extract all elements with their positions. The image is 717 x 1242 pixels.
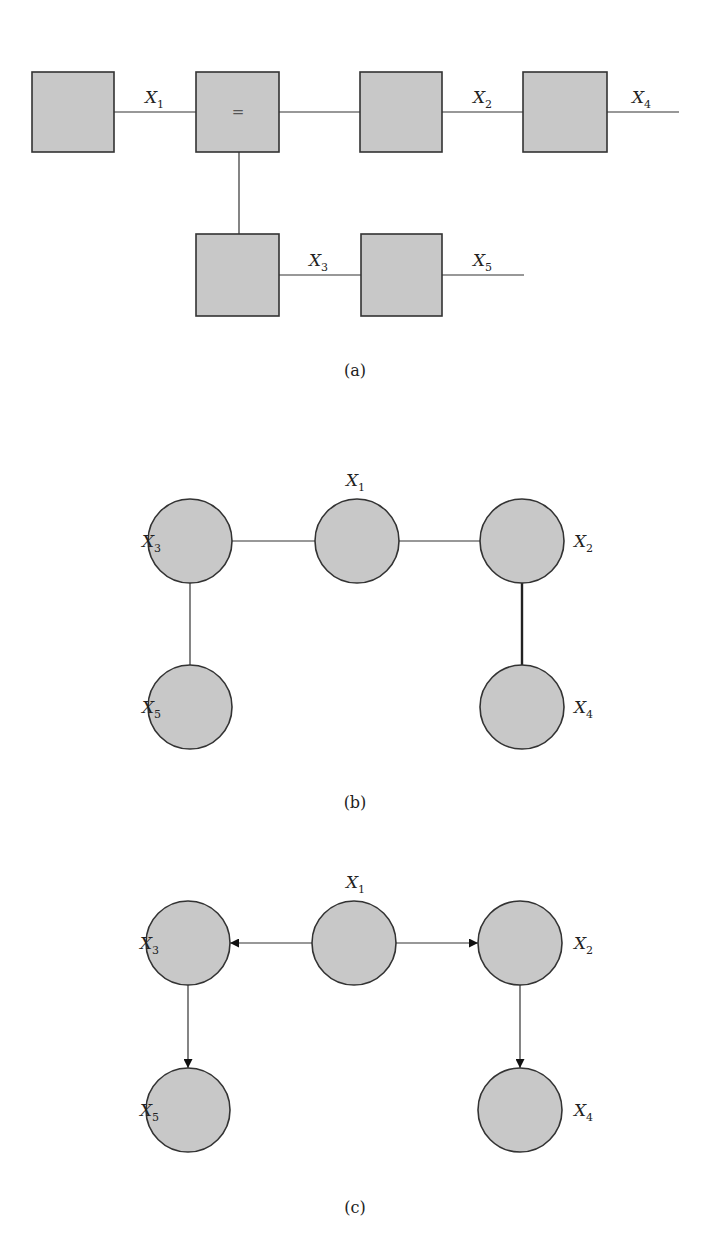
caption-b: (b) — [344, 793, 367, 812]
factor-box-1 — [32, 72, 114, 152]
label-x5: X5 — [471, 250, 492, 274]
figure-canvas: = X1 X2 X4 X3 X5 (a) X1 X3 X2 X5 X4 (b) — [0, 0, 717, 1242]
label-x3: X3 — [307, 250, 328, 274]
label-x4: X4 — [572, 697, 593, 721]
directed-graph-c: X1 X3 X2 X5 X4 (c) — [138, 872, 593, 1217]
label-x2: X2 — [572, 531, 593, 555]
node-x3 — [146, 901, 230, 985]
node-x1 — [312, 901, 396, 985]
label-x1: X1 — [143, 87, 164, 111]
caption-c: (c) — [344, 1198, 365, 1217]
undirected-graph-b: X1 X3 X2 X5 X4 (b) — [140, 470, 593, 812]
caption-a: (a) — [344, 361, 366, 380]
node-x3 — [148, 499, 232, 583]
label-x2: X2 — [471, 87, 492, 111]
label-x2: X2 — [572, 933, 593, 957]
node-x4 — [480, 665, 564, 749]
node-x5 — [146, 1068, 230, 1152]
node-x2 — [478, 901, 562, 985]
node-x2 — [480, 499, 564, 583]
label-x1: X1 — [344, 872, 365, 896]
node-x1 — [315, 499, 399, 583]
factor-box-3 — [360, 72, 442, 152]
factor-box-6 — [361, 234, 442, 316]
factor-box-5 — [196, 234, 279, 316]
equality-symbol: = — [232, 103, 245, 121]
label-x4: X4 — [572, 1100, 593, 1124]
factor-box-4 — [523, 72, 607, 152]
factor-graph-a: = X1 X2 X4 X3 X5 (a) — [32, 72, 679, 380]
label-x4: X4 — [630, 87, 651, 111]
node-x5 — [148, 665, 232, 749]
node-x4 — [478, 1068, 562, 1152]
label-x1: X1 — [344, 470, 365, 494]
